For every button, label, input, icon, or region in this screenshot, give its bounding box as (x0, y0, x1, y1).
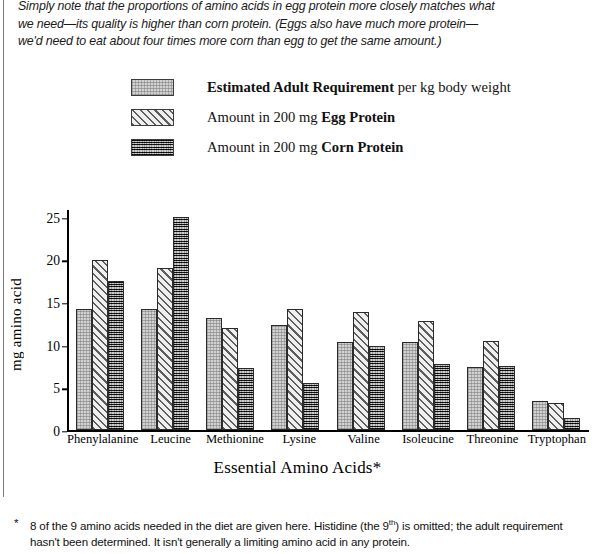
legend-bold-text: Corn Protein (321, 139, 403, 155)
bar (483, 341, 499, 431)
legend-item-corn: Amount in 200 mg Corn Protein (131, 132, 551, 162)
bar (287, 309, 303, 430)
bar-group (263, 210, 328, 430)
bar-group (198, 210, 263, 430)
bar-group (67, 210, 132, 430)
footnote-star: * (14, 515, 18, 531)
x-tick-label: Leucine (138, 432, 202, 447)
bar (92, 260, 108, 431)
bar (76, 309, 92, 430)
bar-group (328, 210, 393, 430)
y-tick-label: 10 (46, 339, 60, 355)
legend-item-label: Amount in 200 mg Corn Protein (207, 139, 403, 156)
footnote: * 8 of the 9 amino acids needed in the d… (14, 515, 586, 551)
legend-bold-text: Estimated Adult Requirement (207, 79, 394, 95)
bar (222, 328, 238, 430)
bar (548, 403, 564, 430)
chart-legend: Estimated Adult Requirement per kg body … (131, 72, 551, 162)
y-tick-label: 15 (46, 296, 60, 312)
bar-group (524, 210, 589, 430)
x-tick-label: Tryptophan (525, 432, 589, 447)
bar (532, 401, 548, 431)
page-canvas: Simply note that the proportions of amin… (0, 0, 595, 554)
y-tick-label: 0 (53, 424, 60, 440)
bar (303, 383, 319, 430)
bar (402, 342, 418, 431)
bar (173, 217, 189, 430)
legend-item-requirement: Estimated Adult Requirement per kg body … (131, 72, 551, 102)
bar (353, 312, 369, 431)
bar-group (459, 210, 524, 430)
footnote-part-1: 8 of the 9 amino acids needed in the die… (30, 519, 389, 532)
y-tick-label: 20 (46, 253, 60, 269)
legend-item-label: Estimated Adult Requirement per kg body … (207, 79, 511, 96)
diagonal-hatch-swatch (131, 109, 174, 126)
legend-item-egg: Amount in 200 mg Egg Protein (131, 102, 551, 132)
intro-line-3: we'd need to eat about four times more c… (18, 33, 584, 51)
bar (238, 368, 254, 430)
legend-bold-text: Egg Protein (321, 109, 395, 125)
intro-paragraph: Simply note that the proportions of amin… (18, 0, 584, 51)
left-margin-rule (3, 0, 4, 497)
intro-line-2: we need—its quality is higher than corn … (18, 16, 584, 34)
light-gray-stipple-swatch (131, 79, 174, 96)
bar (369, 346, 385, 431)
legend-lead-text: Amount in 200 mg (207, 139, 321, 155)
dark-crosshatch-swatch (131, 139, 174, 156)
x-tick-label: Methionine (203, 432, 267, 447)
x-tick-label: Valine (331, 432, 395, 447)
bar (108, 281, 124, 430)
bar (141, 309, 157, 430)
bar-group (393, 210, 458, 430)
bar (157, 268, 173, 430)
x-tick-label: Lysine (267, 432, 331, 447)
bar (418, 321, 434, 430)
bar (271, 325, 287, 431)
bar (499, 366, 515, 431)
bar-groups (67, 210, 589, 430)
bar (337, 342, 353, 430)
bar-group (132, 210, 197, 430)
y-tick-label: 5 (53, 381, 60, 397)
plot-area: 0510152025 (67, 210, 589, 432)
legend-item-label: Amount in 200 mg Egg Protein (207, 109, 395, 126)
y-tick-label: 25 (46, 211, 60, 227)
footnote-text: 8 of the 9 amino acids needed in the die… (30, 515, 586, 551)
x-axis-title: Essential Amino Acids* (0, 458, 595, 478)
x-tick-label: Phenylalanine (67, 432, 138, 447)
bar (467, 367, 483, 430)
x-axis-ticks: PhenylalanineLeucineMethionineLysineVali… (67, 432, 589, 447)
y-axis-title: mg amino acid (8, 278, 25, 371)
bar (564, 418, 580, 431)
bar (434, 364, 450, 431)
legend-rest-text: per kg body weight (394, 79, 511, 95)
x-tick-label: Isoleucine (396, 432, 460, 447)
x-tick-label: Threonine (460, 432, 524, 447)
legend-lead-text: Amount in 200 mg (207, 109, 321, 125)
bar (206, 318, 222, 431)
intro-line-1: Simply note that the proportions of amin… (18, 0, 584, 16)
